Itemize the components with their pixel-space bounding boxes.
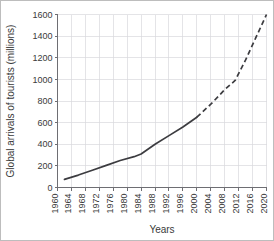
x-tick-label: 2016 [245, 193, 255, 213]
series-line-observed [64, 117, 196, 179]
y-tick-label: 1600 [32, 10, 52, 20]
x-tick-label: 2008 [217, 194, 227, 214]
x-tick-label: 1996 [175, 194, 185, 214]
x-axis-title: Years [149, 224, 174, 235]
y-tick-label: 400 [37, 139, 52, 149]
y-tick-label: 0 [47, 183, 52, 193]
chart-figure: 02004006008001000120014001600 1960196419… [0, 0, 274, 241]
y-tick-label: 1000 [32, 75, 52, 85]
y-tick-label: 1400 [32, 31, 52, 41]
x-tick-label: 1960 [50, 194, 60, 214]
x-tick-label: 1972 [91, 194, 101, 214]
x-tick-label: 2020 [259, 194, 269, 214]
x-tick-label: 1984 [133, 194, 143, 214]
x-tick-label: 1964 [63, 194, 73, 214]
y-axis-tick-labels: 02004006008001000120014001600 [32, 10, 52, 193]
x-tick-label: 2004 [203, 194, 213, 214]
series-line-projected [197, 15, 267, 118]
horizontal-gridlines [58, 15, 267, 188]
x-tick-label: 1992 [161, 194, 171, 214]
y-tick-label: 600 [37, 118, 52, 128]
x-tick-label: 2000 [189, 194, 199, 214]
y-tick-label: 200 [37, 161, 52, 171]
line-chart: 02004006008001000120014001600 1960196419… [1, 1, 274, 241]
x-tick-label: 2012 [231, 194, 241, 214]
y-tick-label: 800 [37, 96, 52, 106]
x-axis-tick-labels: 1960196419681972197619801984198819921996… [50, 193, 269, 213]
y-tick-label: 1200 [32, 53, 52, 63]
x-tick-label: 1968 [77, 194, 87, 214]
y-axis-title: Global arrivals of tourists (millions) [5, 25, 16, 178]
x-tick-label: 1980 [119, 194, 129, 214]
x-tick-label: 1988 [147, 194, 157, 214]
x-tick-label: 1976 [105, 194, 115, 214]
